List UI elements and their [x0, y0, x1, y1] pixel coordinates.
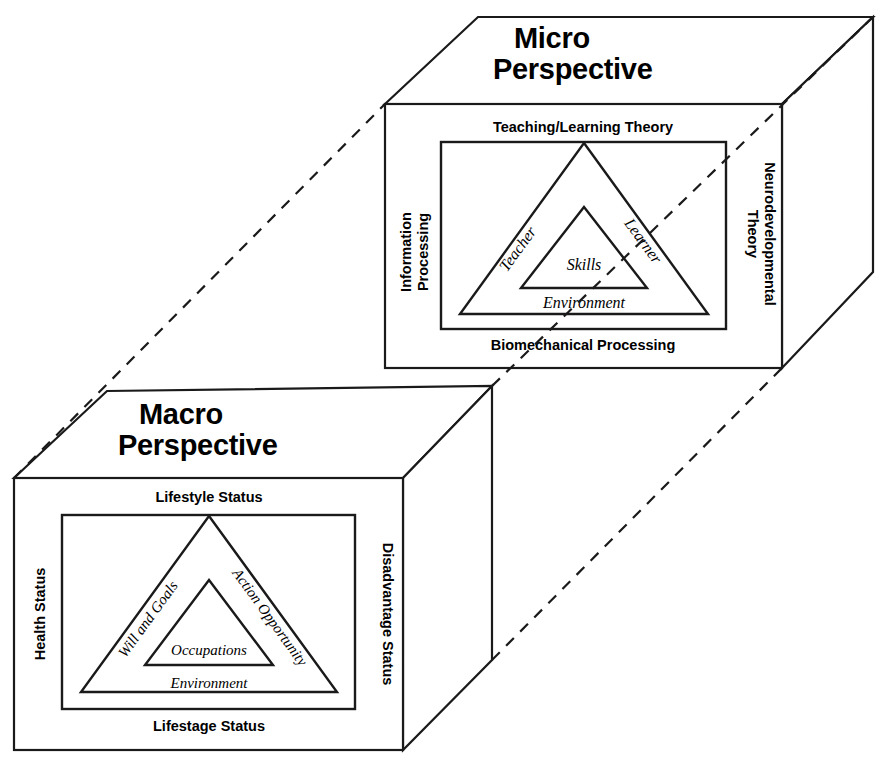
- diagram-root: Micro Perspective Teaching/Learning Theo…: [0, 0, 885, 766]
- macro-edge-label-top: Lifestyle Status: [155, 489, 262, 505]
- micro-title-line-2: Perspective: [493, 53, 653, 85]
- connector-lower-dashed-line: [492, 368, 782, 660]
- micro-edge-label-top: Teaching/Learning Theory: [493, 119, 673, 135]
- micro-title-line-1: Micro: [514, 22, 590, 54]
- perspective-model-diagram: Micro Perspective Teaching/Learning Theo…: [0, 0, 885, 766]
- macro-edge-label-bottom: Lifestage Status: [153, 718, 265, 734]
- micro-perspective-box: Micro Perspective Teaching/Learning Theo…: [385, 17, 873, 368]
- micro-edge-label-left-line-1: Information: [398, 212, 414, 292]
- macro-triangle-label-occupations: Occupations: [171, 642, 247, 658]
- micro-edge-label-right-line-2: Theory: [745, 210, 761, 258]
- macro-edge-label-right: Disadvantage Status: [380, 543, 396, 686]
- macro-title-line-1: Macro: [139, 398, 223, 430]
- micro-edge-label-left-line-2: Processing: [415, 213, 431, 291]
- macro-perspective-box: Macro Perspective Lifestyle Status Lifes…: [14, 386, 492, 750]
- macro-title-line-2: Perspective: [118, 429, 278, 461]
- micro-edge-label-bottom: Biomechanical Processing: [491, 337, 676, 353]
- macro-triangle-label-environment: Environment: [170, 675, 249, 691]
- micro-edge-label-right-line-1: Neurodevelopmental: [762, 162, 778, 305]
- macro-edge-label-left: Health Status: [32, 568, 48, 661]
- micro-triangle-label-skills: Skills: [567, 256, 602, 273]
